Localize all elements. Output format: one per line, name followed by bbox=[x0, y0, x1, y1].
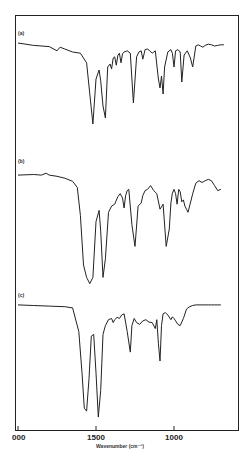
x-tick-label-1500: 1500 bbox=[87, 433, 105, 442]
panel-label-b: (b) bbox=[18, 158, 25, 164]
x-tick-label-1000: 1000 bbox=[165, 433, 183, 442]
spectrum-trace-b bbox=[18, 173, 221, 283]
ir-spectra-chart: 00015001000 (a) (b) (c) Wavenumber (cm⁻¹… bbox=[0, 0, 252, 462]
panel-label-a: (a) bbox=[18, 30, 24, 36]
panel-label-c: (c) bbox=[18, 292, 24, 298]
plot-frame bbox=[16, 16, 239, 431]
spectrum-trace-c bbox=[18, 305, 221, 417]
spectrum-trace-a bbox=[18, 43, 224, 124]
x-tick-label-2000: 000 bbox=[12, 433, 26, 442]
x-axis-title: Wavenumber (cm⁻¹) bbox=[96, 443, 144, 449]
